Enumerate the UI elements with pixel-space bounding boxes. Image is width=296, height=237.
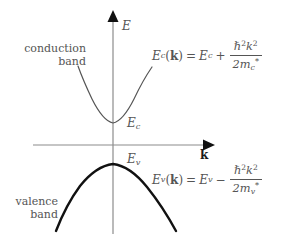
ec-subscript: c [136, 121, 141, 131]
eq-c-rhs-E: E [199, 49, 208, 63]
k-axis [33, 140, 215, 151]
valence-band-label: valence band [8, 196, 58, 222]
valence-band-label-line2: band [8, 209, 58, 222]
energy-level-ec-label: Ec [127, 116, 140, 131]
conduction-band-equation: Ec(k)=Ec+ ℏ2k2 2mc* [152, 40, 263, 71]
eq-v-rhs-sub: v [208, 175, 213, 185]
band-structure-figure: E k conduction band valence band Ec Ev E… [0, 0, 296, 237]
conduction-band-label-line2: band [12, 56, 86, 69]
eq-c-lhs-E: E [152, 49, 161, 63]
valence-band-equation: Ev(k)=Ev− ℏ2k2 2mv* [152, 164, 263, 195]
eq-c-rhs-sub: c [208, 51, 213, 61]
eq-c-operator: + [215, 49, 225, 63]
eq-v-den-m: m [240, 181, 251, 195]
eq-v-k-exp: 2 [253, 163, 258, 172]
eq-c-den-m: m [240, 57, 251, 71]
eq-v-fraction: ℏ2k2 2mv* [230, 164, 262, 195]
eq-v-rhs-E: E [199, 173, 208, 187]
eq-v-equals: = [186, 173, 196, 187]
eq-c-den-coeff: 2 [233, 57, 240, 71]
conduction-band-curve [78, 66, 152, 123]
eq-v-k: k [246, 163, 253, 177]
eq-c-den-star: * [255, 57, 259, 66]
eq-v-lhs-E: E [152, 173, 161, 187]
eq-v-arg-k: k [170, 173, 178, 187]
ev-subscript: v [136, 157, 141, 167]
eq-c-fraction: ℏ2k2 2mc* [230, 40, 262, 71]
eq-c-numerator: ℏ2k2 [231, 40, 261, 55]
ec-symbol: E [127, 116, 136, 130]
eq-v-operator: − [216, 173, 226, 187]
eq-c-equals: = [186, 49, 196, 63]
e-axis-label: E [122, 19, 131, 33]
eq-v-denominator: 2mv* [230, 179, 262, 196]
e-axis-arrowhead [108, 10, 119, 22]
k-axis-label: k [200, 148, 208, 162]
eq-v-den-star: * [255, 181, 259, 190]
eq-v-numerator: ℏ2k2 [231, 164, 261, 179]
eq-v-paren-close: ) [178, 173, 183, 187]
eq-c-denominator: 2mc* [230, 55, 262, 72]
energy-level-ev-label: Ev [127, 152, 140, 167]
conduction-band-label: conduction band [12, 43, 86, 69]
eq-c-arg-k: k [170, 49, 178, 63]
eq-c-k: k [246, 39, 253, 53]
eq-v-den-coeff: 2 [233, 181, 240, 195]
eq-c-k-exp: 2 [253, 39, 258, 48]
ev-symbol: E [127, 152, 136, 166]
eq-c-paren-close: ) [178, 49, 183, 63]
